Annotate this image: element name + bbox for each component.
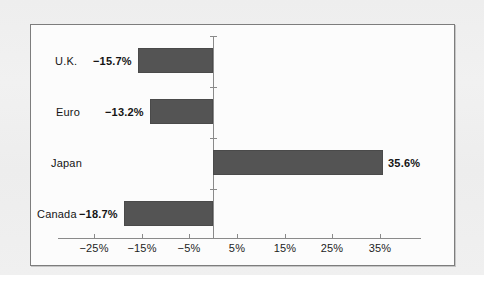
category-label-euro: Euro (56, 106, 80, 118)
bar-euro (150, 99, 213, 124)
bar-uk (138, 48, 213, 73)
category-label-canada: Canada (37, 208, 77, 220)
value-label-canada: −18.7% (79, 208, 118, 220)
x-tick-mark-minus15 (142, 234, 143, 239)
value-label-euro: −13.2% (105, 106, 144, 118)
x-tick-label-plus25: 25% (321, 242, 344, 254)
x-tick-mark-plus5 (237, 234, 238, 239)
plot-area: −25% −15% −5% 5% 15% 25% 35% U.K. −15.7%… (31, 25, 454, 265)
x-tick-label-plus35: 35% (369, 242, 392, 254)
value-label-japan: 35.6% (388, 157, 420, 169)
x-tick-mark-minus25 (94, 234, 95, 239)
x-axis-line (58, 238, 421, 239)
chart-frame: −25% −15% −5% 5% 15% 25% 35% U.K. −15.7%… (30, 24, 455, 266)
x-tick-label-minus5: −5% (178, 242, 201, 254)
zero-axis-tick-3 (210, 189, 217, 190)
x-tick-label-plus5: 5% (229, 242, 245, 254)
value-label-uk: −15.7% (93, 55, 132, 67)
x-tick-label-plus15: 15% (274, 242, 297, 254)
chart-page: −25% −15% −5% 5% 15% 25% 35% U.K. −15.7%… (0, 0, 484, 289)
x-tick-label-minus15: −15% (127, 242, 156, 254)
bar-japan (213, 150, 383, 175)
page-bottom-margin (0, 275, 484, 289)
x-tick-mark-minus5 (189, 234, 190, 239)
x-tick-mark-plus25 (332, 234, 333, 239)
x-tick-label-minus25: −25% (79, 242, 108, 254)
x-tick-mark-plus35 (380, 234, 381, 239)
zero-axis-tick-2 (210, 138, 217, 139)
category-label-japan: Japan (51, 157, 82, 169)
zero-axis-top-cap (210, 36, 217, 37)
zero-axis-tick-1 (210, 87, 217, 88)
bar-canada (124, 201, 213, 226)
x-tick-mark-plus15 (285, 234, 286, 239)
category-label-uk: U.K. (55, 55, 77, 67)
